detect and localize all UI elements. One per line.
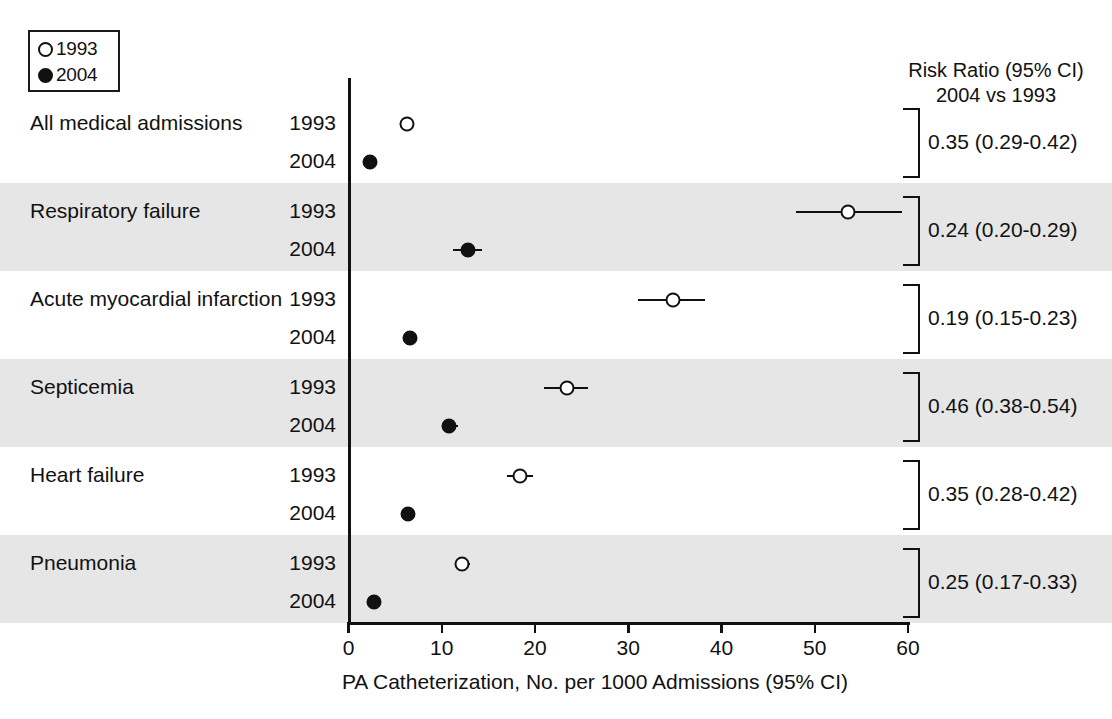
legend-label-1993: 1993	[56, 36, 97, 62]
x-tick-label-60: 60	[896, 636, 919, 660]
year-label-new-2: 2004	[274, 325, 336, 349]
data-point-2004-4	[401, 507, 416, 522]
forest-plot-figure: 1993 2004 Risk Ratio (95% CI) 2004 vs 19…	[0, 0, 1112, 719]
year-label-old-2: 1993	[274, 287, 336, 311]
x-tick-label-0: 0	[343, 636, 355, 660]
year-label-old-1: 1993	[274, 199, 336, 223]
x-tick-label-40: 40	[710, 636, 733, 660]
risk-ratio-value-0: 0.35 (0.29-0.42)	[928, 130, 1077, 154]
data-point-2004-3	[442, 419, 457, 434]
category-label-4: Heart failure	[30, 463, 310, 487]
x-tick-label-20: 20	[523, 636, 546, 660]
legend: 1993 2004	[28, 30, 120, 92]
category-label-1: Respiratory failure	[30, 199, 310, 223]
legend-entry-2004: 2004	[38, 62, 118, 88]
category-label-3: Septicemia	[30, 375, 310, 399]
risk-ratio-bracket-4	[903, 460, 920, 530]
year-label-new-1: 2004	[274, 237, 336, 261]
year-label-old-3: 1993	[274, 375, 336, 399]
year-label-new-3: 2004	[274, 413, 336, 437]
year-label-new-0: 2004	[274, 149, 336, 173]
year-label-new-4: 2004	[274, 501, 336, 525]
data-point-2004-2	[403, 331, 418, 346]
year-label-old-5: 1993	[274, 551, 336, 575]
x-tick-30	[627, 622, 630, 633]
data-point-1993-4	[513, 469, 528, 484]
x-tick-label-50: 50	[803, 636, 826, 660]
x-tick-label-10: 10	[430, 636, 453, 660]
category-label-0: All medical admissions	[30, 111, 310, 135]
y-axis-line	[348, 78, 351, 624]
risk-ratio-value-5: 0.25 (0.17-0.33)	[928, 570, 1077, 594]
category-label-2: Acute myocardial infarction	[30, 287, 310, 311]
risk-ratio-value-2: 0.19 (0.15-0.23)	[928, 306, 1077, 330]
data-point-1993-3	[559, 381, 574, 396]
x-tick-label-30: 30	[617, 636, 640, 660]
risk-ratio-bracket-2	[903, 284, 920, 354]
x-tick-0	[347, 622, 350, 633]
risk-ratio-header-line2: 2004 vs 1993	[880, 83, 1112, 108]
data-point-1993-1	[841, 205, 856, 220]
x-tick-20	[534, 622, 537, 633]
year-label-new-5: 2004	[274, 589, 336, 613]
open-circle-icon	[38, 42, 53, 57]
year-label-old-4: 1993	[274, 463, 336, 487]
risk-ratio-bracket-5	[903, 548, 920, 618]
data-point-2004-1	[460, 243, 475, 258]
category-label-5: Pneumonia	[30, 551, 310, 575]
risk-ratio-bracket-1	[903, 196, 920, 266]
year-label-old-0: 1993	[274, 111, 336, 135]
x-axis-title-text: PA Catheterization, No. per 1000 Admissi…	[342, 670, 848, 694]
x-tick-10	[441, 622, 444, 633]
x-tick-60	[907, 622, 910, 633]
data-point-2004-0	[362, 155, 377, 170]
legend-entry-1993: 1993	[38, 36, 118, 62]
data-point-1993-0	[400, 117, 415, 132]
data-point-2004-5	[366, 595, 381, 610]
risk-ratio-header-line1: Risk Ratio (95% CI)	[880, 58, 1112, 83]
risk-ratio-value-4: 0.35 (0.28-0.42)	[928, 482, 1077, 506]
x-tick-40	[720, 622, 723, 633]
risk-ratio-bracket-3	[903, 372, 920, 442]
risk-ratio-value-3: 0.46 (0.38-0.54)	[928, 394, 1077, 418]
legend-label-2004: 2004	[56, 62, 97, 88]
x-axis-title: PA Catheterization, No. per 1000 Admissi…	[0, 670, 1112, 694]
filled-circle-icon	[38, 68, 53, 83]
risk-ratio-header: Risk Ratio (95% CI) 2004 vs 1993	[880, 58, 1112, 108]
risk-ratio-value-1: 0.24 (0.20-0.29)	[928, 218, 1077, 242]
data-point-1993-2	[666, 293, 681, 308]
x-tick-50	[814, 622, 817, 633]
data-point-1993-5	[455, 557, 470, 572]
risk-ratio-bracket-0	[903, 108, 920, 178]
